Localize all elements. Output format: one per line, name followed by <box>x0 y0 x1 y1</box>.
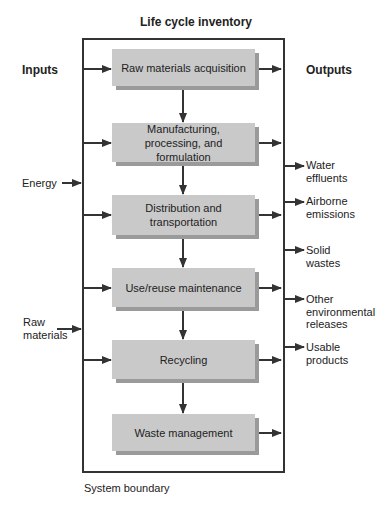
stage-label: Distribution and transportation <box>140 201 227 229</box>
input-raw-materials: Raw materials <box>23 316 57 341</box>
stage-raw-materials-acquisition: Raw materials acquisition <box>112 49 255 86</box>
stage-use-reuse: Use/reuse maintenance <box>112 268 255 307</box>
stage-label: Waste management <box>134 426 232 440</box>
output-other-releases: Other environmental releases <box>306 293 376 331</box>
system-boundary-label: System boundary <box>84 482 170 494</box>
stage-label: Raw materials acquisition <box>121 61 246 75</box>
stage-label: Use/reuse maintenance <box>125 281 241 295</box>
stage-distribution: Distribution and transportation <box>112 195 255 235</box>
output-solid-wastes: Solid wastes <box>306 244 346 269</box>
output-water-effluents: Water effluents <box>306 159 356 184</box>
output-usable-products: Usable products <box>306 341 356 366</box>
stage-manufacturing: Manufacturing, processing, and formulati… <box>112 123 255 162</box>
stage-recycling: Recycling <box>112 340 255 379</box>
stage-waste-management: Waste management <box>112 414 255 451</box>
output-airborne-emissions: Airborne emissions <box>306 195 356 220</box>
stage-label: Manufacturing, processing, and formulati… <box>118 122 249 164</box>
input-energy: Energy <box>22 177 57 190</box>
stage-label: Recycling <box>160 353 208 367</box>
